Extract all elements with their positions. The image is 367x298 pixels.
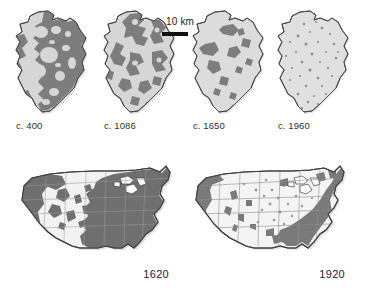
us-map-row: 1620 [0,150,367,298]
region-map-row: c. 400 [0,0,367,148]
us-map-label-1620: 1620 [10,268,185,280]
us-map-1920-svg [184,156,359,268]
us-map-panel-1920: 1920 [184,156,359,286]
region-map-400-svg [8,8,100,120]
us-map-label-1920: 1920 [184,268,359,280]
region-map-label-400: c. 400 [8,120,100,131]
us-map-1620-svg [10,156,185,268]
region-map-label-1650: c. 1650 [185,120,277,131]
scale-bar: 10 km [156,16,216,40]
region-map-label-1086: c. 1086 [96,120,188,131]
scale-bar-rule [162,32,188,36]
region-map-label-1960: c. 1960 [270,120,362,131]
region-map-panel-1960: c. 1960 [270,8,362,126]
scale-bar-label: 10 km [156,16,204,27]
region-map-panel-400: c. 400 [8,8,100,126]
deforestation-figure: c. 400 [0,0,367,298]
region-map-1960-svg [270,8,362,120]
us-map-panel-1620: 1620 [10,156,185,286]
